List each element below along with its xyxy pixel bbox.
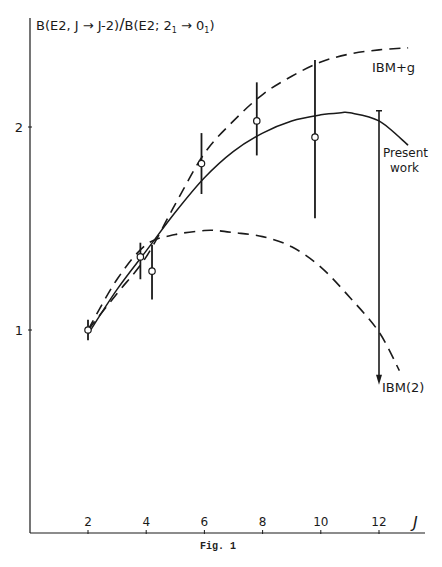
curve-present-work	[88, 112, 408, 334]
data-point	[312, 60, 318, 218]
data-marker	[254, 118, 260, 124]
data-point	[254, 82, 260, 155]
data-marker	[137, 254, 143, 260]
x-tick-label: 12	[371, 515, 386, 529]
chart-curves	[88, 48, 408, 371]
data-point	[85, 320, 91, 340]
upper-limit-arrow	[376, 111, 382, 385]
present-work-label-line2: work	[390, 161, 419, 175]
data-marker	[198, 160, 204, 166]
x-tick-label: 8	[259, 515, 267, 529]
data-point	[149, 245, 155, 300]
present-work-label-line1: Present	[383, 146, 428, 160]
curve-ibm-g	[88, 48, 408, 330]
curve-ibm-2-	[88, 230, 399, 370]
y-tick-label: 1	[15, 323, 23, 338]
ibm-g-label: IBM+g	[372, 60, 415, 75]
chart-axes: 2468101212	[15, 18, 425, 534]
chart-data-points	[85, 60, 382, 385]
data-marker	[149, 268, 155, 274]
y-axis-title: B(E2, J → J-2)/B(E2; 21 → 01)	[36, 15, 215, 35]
x-tick-label: 6	[201, 515, 209, 529]
x-tick-label: 10	[313, 515, 328, 529]
data-point	[198, 133, 204, 194]
ibm2-label: IBM(2)	[382, 380, 424, 395]
data-marker	[85, 327, 91, 333]
figure-caption: Fig. 1	[200, 541, 236, 552]
x-tick-label: 2	[84, 515, 92, 529]
x-tick-label: 4	[142, 515, 150, 529]
x-axis-title: J	[410, 513, 418, 532]
chart-figure: 2468101212 B(E2, J → J-2)/B(E2; 21 → 01)…	[0, 0, 442, 567]
y-tick-label: 2	[15, 120, 23, 135]
data-marker	[312, 134, 318, 140]
